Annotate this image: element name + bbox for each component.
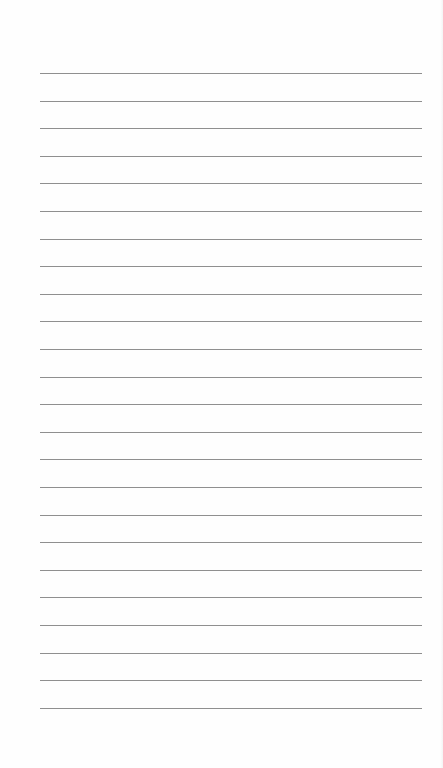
ruled-line bbox=[40, 542, 422, 543]
ruled-line bbox=[40, 211, 422, 212]
ruled-line bbox=[40, 73, 422, 74]
ruled-line bbox=[40, 377, 422, 378]
ruled-line bbox=[40, 239, 422, 240]
ruled-line bbox=[40, 708, 422, 709]
ruled-line bbox=[40, 404, 422, 405]
ruled-line bbox=[40, 459, 422, 460]
ruled-line bbox=[40, 625, 422, 626]
bleed-through-text bbox=[40, 2, 423, 10]
ruled-line bbox=[40, 266, 422, 267]
ruled-line bbox=[40, 294, 422, 295]
ruled-line bbox=[40, 680, 422, 681]
ruled-line bbox=[40, 653, 422, 654]
ruled-line bbox=[40, 183, 422, 184]
ruled-line bbox=[40, 570, 422, 571]
ruled-line bbox=[40, 128, 422, 129]
ruled-line bbox=[40, 515, 422, 516]
ruled-line bbox=[40, 432, 422, 433]
lined-paper-page bbox=[0, 0, 443, 768]
ruled-line bbox=[40, 349, 422, 350]
ruled-line bbox=[40, 597, 422, 598]
ruled-line bbox=[40, 156, 422, 157]
ruled-line bbox=[40, 487, 422, 488]
ruled-line bbox=[40, 321, 422, 322]
ruled-line bbox=[40, 101, 422, 102]
